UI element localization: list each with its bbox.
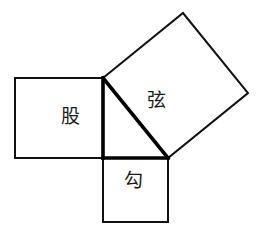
label-horizontal-leg: 勾 xyxy=(124,171,143,190)
geometry-canvas xyxy=(0,0,267,238)
pythagorean-diagram: 股 弦 勾 xyxy=(0,0,267,238)
square-on-hypotenuse xyxy=(103,13,248,158)
square-on-vertical-leg xyxy=(15,78,103,158)
label-hypotenuse: 弦 xyxy=(147,91,166,110)
label-vertical-leg: 股 xyxy=(61,107,80,126)
